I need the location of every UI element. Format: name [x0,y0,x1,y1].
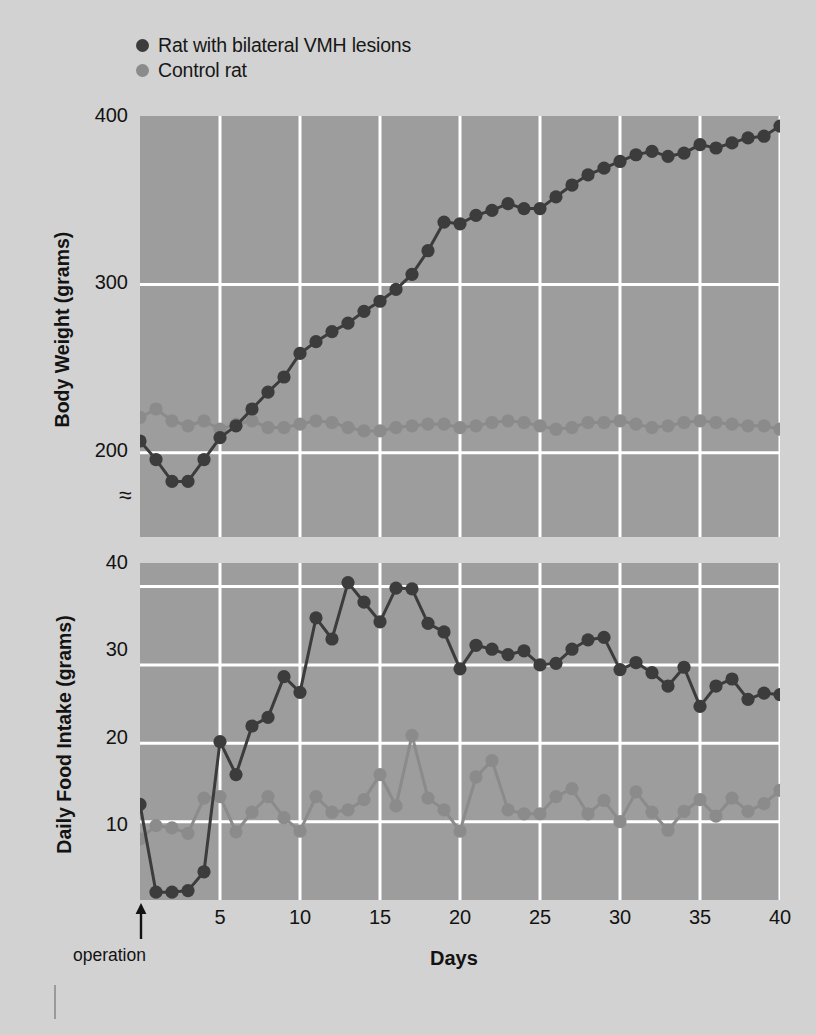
legend-marker-control [136,64,149,77]
legend-label-lesion: Rat with bilateral VMH lesions [158,34,411,57]
food-intake-ytick-30: 30 [78,638,128,661]
body-weight-chart [140,116,780,537]
x-axis-tick-10: 10 [275,906,325,929]
x-axis-tick-25: 25 [515,906,565,929]
body-weight-axis-title: Body Weight (grams) [51,220,74,440]
registration-mark [54,985,56,1019]
x-axis-tick-20: 20 [435,906,485,929]
x-axis-tick-40: 40 [755,906,805,929]
food-intake-chart [140,563,780,900]
food-intake-ytick-20: 20 [78,726,128,749]
operation-arrow-icon [132,903,150,939]
body-weight-ytick-300: 300 [78,271,128,294]
figure-container: Rat with bilateral VMH lesions Control r… [0,0,816,1035]
x-axis-title: Days [430,947,478,970]
x-axis-tick-5: 5 [195,906,245,929]
food-intake-plot-svg [140,563,780,900]
food-intake-ytick-10: 10 [78,813,128,836]
food-intake-ytick-40: 40 [78,551,128,574]
axis-break-icon: ≈ [119,484,132,507]
legend-item-control: Control rat [136,58,556,83]
x-axis-tick-15: 15 [355,906,405,929]
body-weight-ytick-400: 400 [78,104,128,127]
x-axis-tick-35: 35 [675,906,725,929]
legend-label-control: Control rat [158,59,247,82]
food-intake-axis-title: Daily Food Intake (grams) [53,605,76,865]
body-weight-plot-svg [140,116,780,537]
x-axis-tick-30: 30 [595,906,645,929]
legend-item-lesion: Rat with bilateral VMH lesions [136,33,556,58]
legend-marker-lesion [136,39,149,52]
operation-label: operation [73,945,146,966]
chart-legend: Rat with bilateral VMH lesions Control r… [136,33,556,83]
body-weight-ytick-200: 200 [78,439,128,462]
